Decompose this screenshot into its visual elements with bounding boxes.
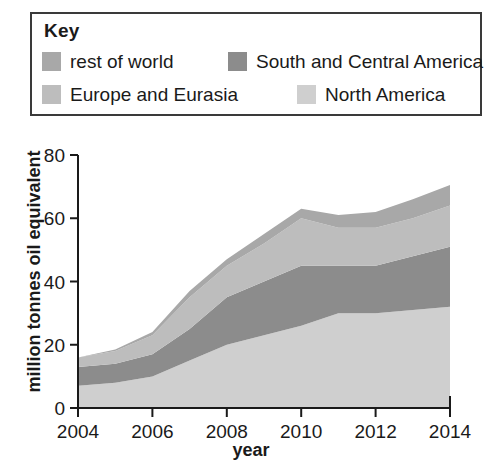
legend-label-north-america: North America — [325, 85, 445, 104]
legend-title: Key — [44, 20, 79, 42]
stacked-area-chart: 020406080 200420062008201020122014 — [0, 124, 502, 444]
legend-item-north-america: North America — [297, 85, 445, 104]
x-tick-label: 2012 — [354, 421, 396, 442]
x-tick-label: 2006 — [131, 421, 173, 442]
legend-item-south-and-central-america: South and Central America — [228, 52, 483, 71]
legend-item-rest-of-world: rest of world — [42, 52, 228, 71]
y-tick-group: 020406080 — [44, 145, 78, 419]
legend-label-europe-and-eurasia: Europe and Eurasia — [70, 85, 238, 104]
y-tick-label: 20 — [44, 335, 65, 356]
legend-swatch-south-and-central-america — [228, 52, 247, 71]
x-tick-label: 2010 — [280, 421, 322, 442]
chart-plot-area: million tonnes oil equivalent year 02040… — [0, 124, 502, 475]
area-series-group — [78, 185, 450, 408]
x-tick-label: 2008 — [206, 421, 248, 442]
legend-row-1: rest of world South and Central America — [42, 52, 483, 71]
legend-row-2: Europe and Eurasia North America — [42, 85, 445, 104]
y-tick-label: 0 — [54, 398, 65, 419]
y-tick-label: 80 — [44, 145, 65, 166]
chart-figure: Key rest of world South and Central Amer… — [0, 0, 502, 475]
y-tick-label: 40 — [44, 272, 65, 293]
x-tick-group: 200420062008201020122014 — [57, 408, 472, 442]
x-tick-label: 2014 — [429, 421, 472, 442]
legend-label-rest-of-world: rest of world — [70, 52, 173, 71]
legend-swatch-north-america — [297, 85, 316, 104]
chart-legend: Key rest of world South and Central Amer… — [30, 12, 482, 116]
y-tick-label: 60 — [44, 208, 65, 229]
legend-item-europe-and-eurasia: Europe and Eurasia — [42, 85, 297, 104]
x-tick-label: 2004 — [57, 421, 100, 442]
legend-swatch-europe-and-eurasia — [42, 85, 61, 104]
legend-swatch-rest-of-world — [42, 52, 61, 71]
legend-label-south-and-central-america: South and Central America — [256, 52, 483, 71]
